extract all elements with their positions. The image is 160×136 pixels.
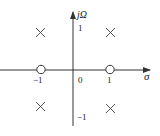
zero-marker-pos1 — [106, 65, 114, 73]
tick-label-x-pos1: 1 — [107, 75, 112, 85]
tick-label-x-neg1: −1 — [33, 75, 43, 85]
origin-label: 0 — [78, 75, 83, 85]
pole-marker-pos1-neg1 — [106, 104, 115, 113]
zero-marker-neg1 — [37, 65, 45, 73]
pole-zero-plot: jΩ 1 0 −1 1 σ −1 — [0, 0, 160, 136]
pole-marker-neg1-neg1 — [36, 102, 45, 111]
pole-marker-neg1-pos1 — [36, 28, 45, 37]
tick-label-y-neg1: −1 — [77, 112, 87, 122]
horizontal-axis-label: σ — [144, 70, 150, 82]
tick-label-y-pos1: 1 — [78, 23, 83, 33]
vertical-axis-label: jΩ — [75, 9, 87, 20]
pole-marker-pos1-pos1 — [106, 28, 115, 37]
